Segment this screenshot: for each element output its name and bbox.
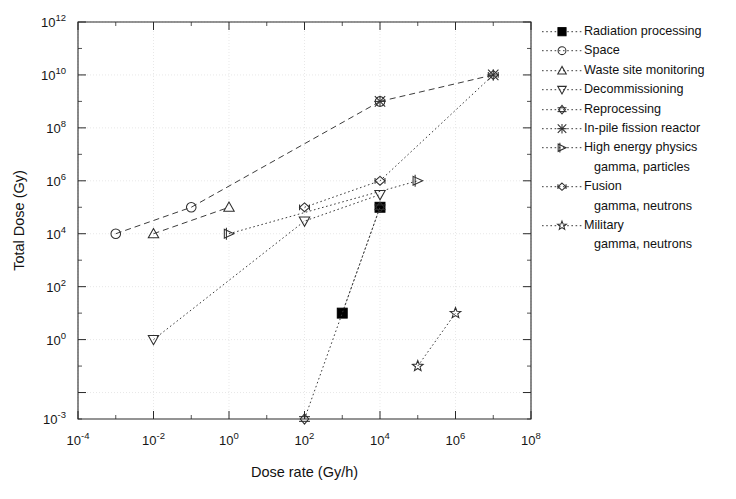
marker-filled-square	[558, 28, 566, 36]
y-axis-tick-label: 106	[46, 171, 66, 189]
legend-item-label: High energy physics	[584, 138, 697, 157]
marker-tri-arrow	[558, 143, 566, 153]
tick-labels-layer: 10-410-210010210410610810121010108106104…	[41, 12, 541, 448]
marker-open-circle	[111, 229, 121, 239]
legend-item-label: Radiation processing	[584, 22, 702, 41]
x-axis-tick-label: 102	[295, 430, 315, 448]
y-axis-tick-label: 102	[46, 277, 66, 295]
legend-item-reprocessing[interactable]: Reprocessing	[540, 100, 736, 119]
x-axis-tick-label: 10-2	[142, 430, 165, 448]
y-axis-tick-label: 100	[46, 330, 66, 348]
legend-item-label: Waste site monitoring	[584, 61, 705, 80]
legend-item-high-energy-physics[interactable]: High energy physics	[540, 138, 736, 157]
marker-x-star	[557, 124, 566, 133]
x-axis-tick-label: 104	[370, 430, 390, 448]
marker-triangle-down	[375, 191, 385, 200]
series-waste-site-monitoring	[148, 202, 234, 238]
y-axis-tick-label: 1010	[41, 65, 66, 83]
series-line	[229, 181, 418, 234]
y-axis-tick-label: 10-3	[43, 409, 66, 427]
legend-item-space[interactable]: Space	[540, 41, 736, 60]
marker-diamond-bar	[558, 105, 567, 114]
series-high-energy-physics	[224, 175, 422, 240]
legend-item-label: In-pile fission reactor	[584, 119, 700, 138]
series-space	[111, 97, 385, 239]
legend-item-in-pile-fission-reactor[interactable]: In-pile fission reactor	[540, 119, 736, 138]
series-line	[154, 207, 230, 233]
series-decommissioning	[148, 191, 385, 345]
series-line	[116, 101, 380, 233]
legend-marker-key	[540, 100, 584, 119]
legend-item-fusion[interactable]: Fusion	[540, 177, 736, 196]
legend-marker-key	[540, 216, 584, 235]
marker-star	[558, 221, 567, 229]
legend-marker-key	[540, 61, 584, 80]
y-axis-tick-label: 1012	[41, 12, 66, 30]
y-axis-tick-label: 104	[46, 224, 66, 242]
chart-figure: 10-410-210010210410610810121010108106104…	[0, 0, 736, 499]
series-line	[305, 75, 494, 207]
legend-item-waste-site-monitoring[interactable]: Waste site monitoring	[540, 61, 736, 80]
marker-star	[450, 308, 461, 318]
x-axis-title: Dose rate (Gy/h)	[251, 464, 358, 480]
legend-marker-key	[540, 177, 584, 196]
marker-filled-square	[375, 202, 385, 212]
legend-item-label: Space	[584, 41, 620, 60]
legend-marker-key	[540, 41, 584, 60]
legend-marker-key	[540, 138, 584, 157]
y-axis-title: Total Dose (Gy)	[11, 170, 27, 271]
marker-x-star	[374, 96, 385, 107]
legend-marker-key	[540, 80, 584, 99]
legend-item-label: Decommissioning	[584, 80, 683, 99]
y-axis-tick-label: 108	[46, 118, 66, 136]
legend-item-label: Military	[584, 216, 624, 235]
legend-item-radiation-processing[interactable]: Radiation processing	[540, 22, 736, 41]
legend-marker-key	[540, 22, 584, 41]
legend-item-military[interactable]: Military	[540, 216, 736, 235]
legend-marker-key	[540, 119, 584, 138]
legend-item-decommissioning[interactable]: Decommissioning	[540, 80, 736, 99]
legend-item-sublabel: gamma, neutrons	[540, 235, 736, 254]
x-axis-tick-label: 100	[219, 430, 239, 448]
series-line	[380, 75, 493, 101]
x-axis-tick-label: 10-4	[67, 430, 90, 448]
marker-triangle-up	[224, 202, 234, 211]
series-military	[412, 308, 460, 371]
x-axis-tick-label: 108	[521, 430, 541, 448]
legend-item-sublabel: gamma, particles	[540, 158, 736, 177]
legend-item-sublabel: gamma, neutrons	[540, 197, 736, 216]
data-series-layer	[111, 69, 499, 424]
x-axis-tick-label: 106	[446, 430, 466, 448]
legend-item-label: Fusion	[584, 177, 622, 196]
series-fusion	[300, 71, 499, 212]
chart-legend: Radiation processingSpaceWaste site moni…	[540, 22, 736, 255]
legend-item-label: Reprocessing	[584, 100, 661, 119]
marker-triangle-down	[299, 217, 309, 226]
marker-filled-square	[337, 308, 347, 318]
